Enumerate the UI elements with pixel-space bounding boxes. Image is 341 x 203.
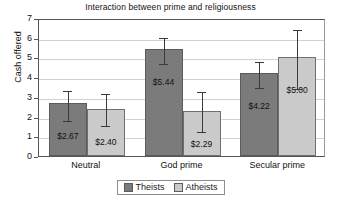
legend-label-atheists: Atheists [186,182,218,192]
error-cap-lower [293,89,302,90]
error-bar [164,38,165,65]
y-tick-label: 3 [4,92,32,102]
legend-item-atheists: Atheists [174,182,218,192]
y-tick-mark [34,98,38,99]
error-cap-upper [101,94,110,95]
error-cap-lower [255,88,264,89]
y-tick-label: 1 [4,131,32,141]
error-cap-lower [197,132,206,133]
bar-chart: Interaction between prime and religiousn… [0,0,341,203]
y-tick-label: 6 [4,33,32,43]
y-tick-label: 2 [4,112,32,122]
y-tick-label: 0 [4,151,32,161]
error-bar [259,62,260,88]
error-bar [297,30,298,90]
x-tick-label: God prime [134,160,230,170]
error-cap-lower [63,121,72,122]
bar-value-label: $5.44 [145,77,183,87]
legend-swatch-theists-icon [123,183,132,192]
error-cap-upper [197,92,206,93]
bar-value-label: $2.40 [87,137,125,147]
error-cap-lower [159,64,168,65]
legend-item-theists: Theists [123,182,164,192]
error-bar [68,91,69,121]
y-tick-mark [34,58,38,59]
y-tick-mark [34,157,38,158]
y-tick-mark [34,118,38,119]
chart-title: Interaction between prime and religiousn… [0,2,341,12]
y-tick-mark [34,19,38,20]
y-tick-label: 7 [4,13,32,23]
error-cap-upper [293,30,302,31]
error-cap-lower [101,126,110,127]
chart-legend: Theists Atheists [116,180,224,195]
error-cap-upper [63,91,72,92]
bar-value-label: $2.67 [49,131,87,141]
plot-area: $2.67$2.40$5.44$2.29$4.22$5.00 [38,19,325,157]
bar-value-label: $2.29 [183,139,221,149]
legend-label-theists: Theists [135,182,164,192]
y-tick-label: 5 [4,52,32,62]
x-tick-label: Secular prime [229,160,325,170]
error-cap-upper [255,62,264,63]
error-bar [202,92,203,132]
error-bar [106,94,107,127]
y-tick-mark [34,39,38,40]
bar-value-label: $4.22 [240,101,278,111]
gridline [39,40,324,41]
error-cap-upper [159,38,168,39]
y-tick-mark [34,78,38,79]
x-tick-label: Neutral [38,160,134,170]
y-tick-label: 4 [4,72,32,82]
legend-swatch-atheists-icon [174,183,183,192]
y-tick-mark [34,137,38,138]
